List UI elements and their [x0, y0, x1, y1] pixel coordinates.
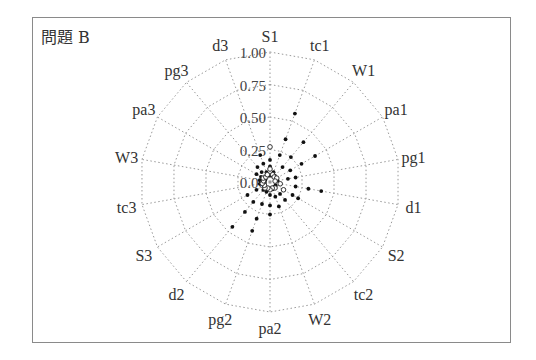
data-point: [284, 137, 288, 141]
data-point: [300, 162, 304, 166]
axis-label-pa2: pa2: [258, 320, 281, 338]
data-point: [246, 193, 250, 197]
axis-label-pa3: pa3: [132, 101, 155, 119]
data-point: [296, 196, 300, 200]
radial-tick-label: 0.25: [240, 143, 266, 159]
data-point-open: [281, 188, 286, 193]
data-point: [255, 217, 259, 221]
data-point-open: [268, 145, 273, 150]
axis-label-pg1: pg1: [401, 149, 425, 167]
data-point: [286, 177, 290, 181]
data-point-open: [273, 179, 278, 184]
axis-spoke: [226, 182, 270, 304]
axis-label-tc2: tc2: [354, 286, 374, 303]
data-points: [230, 112, 323, 233]
axis-label-S3: S3: [135, 247, 152, 264]
data-point: [260, 202, 264, 206]
data-point: [268, 158, 272, 162]
data-point: [260, 170, 264, 174]
data-point: [289, 155, 293, 159]
data-point: [283, 198, 287, 202]
data-point-open: [268, 167, 273, 172]
data-point: [294, 185, 298, 189]
data-point: [268, 193, 272, 197]
axis-label-pg3: pg3: [164, 62, 188, 80]
axis-spoke: [186, 182, 270, 282]
data-point: [250, 229, 254, 233]
data-point-open: [265, 172, 270, 177]
data-point: [313, 154, 317, 158]
data-point: [255, 172, 259, 176]
data-point: [243, 210, 247, 214]
axis-label-W1: W1: [352, 62, 375, 79]
radial-tick-label: 0.50: [240, 110, 266, 126]
data-point: [319, 189, 323, 193]
data-point: [293, 112, 297, 116]
axis-label-d1: d1: [405, 199, 421, 216]
axis-label-W2: W2: [308, 311, 331, 328]
data-point: [291, 193, 295, 197]
data-point: [255, 188, 259, 192]
data-point: [258, 153, 262, 157]
data-point: [251, 200, 255, 204]
data-point: [256, 165, 260, 169]
data-point: [302, 140, 306, 144]
axis-spoke: [270, 60, 314, 182]
data-point: [268, 204, 272, 208]
axis-label-pa1: pa1: [385, 101, 408, 119]
radar-spokes: [142, 52, 398, 312]
axis-spoke: [270, 182, 354, 282]
axis-label-d2: d2: [168, 286, 184, 303]
axis-label-S1: S1: [262, 28, 279, 45]
radial-tick-label: 0.75: [240, 78, 266, 94]
data-point: [307, 187, 311, 191]
axis-label-tc1: tc1: [310, 37, 330, 54]
data-point: [288, 168, 292, 172]
data-point: [278, 153, 282, 157]
radial-tick-label: 1.00: [240, 45, 266, 61]
axis-spoke: [270, 182, 314, 304]
axis-label-d3: d3: [212, 37, 228, 54]
axis-label-tc3: tc3: [117, 199, 137, 216]
radial-tick-labels: 0.000.250.500.751.00: [240, 45, 266, 191]
data-point: [278, 192, 282, 196]
data-point: [273, 195, 277, 199]
axis-label-S2: S2: [388, 247, 405, 264]
data-point-open: [278, 182, 283, 187]
data-point: [294, 176, 298, 180]
data-point: [277, 205, 281, 209]
data-point: [281, 165, 285, 169]
axis-label-pg2: pg2: [208, 311, 232, 329]
data-point: [268, 213, 272, 217]
radar-chart: 0.000.250.500.751.00 S1tc1W1pa1pg1d1S2tc…: [0, 0, 536, 360]
axis-label-W3: W3: [115, 149, 138, 166]
data-point: [230, 225, 234, 229]
data-point: [261, 162, 265, 166]
